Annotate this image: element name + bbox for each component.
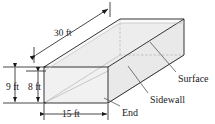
dimension-label-width: 15 ft xyxy=(62,110,80,120)
callout-label-surface: Surface xyxy=(178,74,209,84)
callout-label-sidewall: Sidewall xyxy=(150,95,185,105)
dimension-label-water-depth: 8 ft xyxy=(28,83,41,93)
dimension-label-length: 30 ft xyxy=(54,28,72,38)
dimension-label-wall-height: 9 ft xyxy=(6,83,19,93)
end-face xyxy=(44,67,108,103)
callout-label-end: End xyxy=(122,108,138,118)
channel-diagram xyxy=(0,0,215,124)
